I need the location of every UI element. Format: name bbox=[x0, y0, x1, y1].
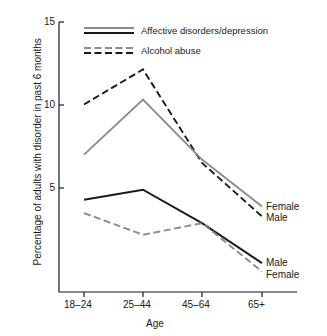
x-tick-label-18-24: 18–24 bbox=[64, 299, 92, 310]
x-axis-title: Age bbox=[146, 318, 164, 329]
x-tick-label-25-44: 25–44 bbox=[123, 299, 151, 310]
legend-swatch-affective bbox=[84, 28, 134, 33]
y-tick-label-15: 15 bbox=[33, 16, 55, 27]
series-end-label-lower-male: Male bbox=[266, 257, 288, 268]
legend-label-affective: Affective disorders/depression bbox=[141, 25, 268, 36]
series-affective-male bbox=[84, 190, 262, 263]
series-end-label-upper-male: Male bbox=[266, 212, 288, 223]
x-tick-label-45-64: 45–64 bbox=[182, 299, 210, 310]
y-axis-title: Percentage of adults with disorder in pa… bbox=[32, 46, 43, 266]
series-alcohol-female bbox=[84, 213, 262, 271]
series-affective-female bbox=[84, 100, 262, 207]
x-tick-label-65-plus: 65+ bbox=[248, 299, 265, 310]
legend-label-alcohol: Alcohol abuse bbox=[141, 45, 201, 56]
series-end-label-upper-female: Female bbox=[266, 201, 299, 212]
series-end-label-lower-female: Female bbox=[266, 269, 299, 280]
y-axis-ticks bbox=[59, 22, 64, 188]
axis-spines bbox=[59, 22, 297, 292]
chart-figure: 15 10 5 18–24 25–44 45–64 65+ Age Percen… bbox=[0, 0, 327, 336]
x-axis-ticks bbox=[84, 292, 262, 297]
legend-swatch-alcohol bbox=[84, 48, 134, 53]
